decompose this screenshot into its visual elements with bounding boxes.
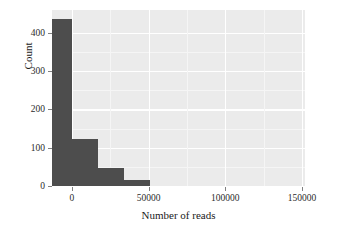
y-axis-tick (48, 148, 52, 149)
y-axis-tick-label: 0 (0, 181, 45, 191)
x-axis-label: Number of reads (52, 209, 305, 221)
gridline-minor-horizontal (52, 52, 305, 53)
gridline-major-horizontal (52, 33, 305, 34)
x-axis-tick (72, 187, 73, 191)
y-axis-tick-label: 200 (0, 104, 45, 114)
x-axis-tick-label: 0 (70, 193, 75, 203)
histogram-figure: Count Number of reads 050000100000150000… (0, 0, 337, 239)
y-axis-tick (48, 186, 52, 187)
plot-panel (52, 10, 305, 186)
y-axis-tick-label: 300 (0, 66, 45, 76)
histogram-bar (52, 19, 72, 186)
gridline-major-vertical (302, 10, 303, 186)
histogram-bar (98, 168, 124, 186)
x-axis-tick-label: 50000 (137, 193, 161, 203)
gridline-minor-horizontal (52, 90, 305, 91)
gridline-minor-horizontal (52, 129, 305, 130)
y-axis-label: Count (22, 6, 34, 106)
y-axis-tick (48, 33, 52, 34)
x-axis-tick-label: 100000 (211, 193, 240, 203)
y-axis-tick (48, 71, 52, 72)
histogram-bar (72, 139, 98, 186)
x-axis-tick (149, 187, 150, 191)
y-axis-tick (48, 109, 52, 110)
x-axis-tick (225, 187, 226, 191)
histogram-bar (124, 180, 150, 186)
gridline-minor-vertical (264, 10, 265, 186)
x-axis-tick-label: 150000 (288, 193, 317, 203)
y-axis-tick-label: 100 (0, 143, 45, 153)
gridline-major-vertical (149, 10, 150, 186)
gridline-minor-vertical (110, 10, 111, 186)
gridline-major-vertical (225, 10, 226, 186)
x-axis-tick (302, 187, 303, 191)
gridline-minor-vertical (187, 10, 188, 186)
gridline-major-horizontal (52, 71, 305, 72)
gridline-major-horizontal (52, 109, 305, 110)
y-axis-tick-label: 400 (0, 28, 45, 38)
